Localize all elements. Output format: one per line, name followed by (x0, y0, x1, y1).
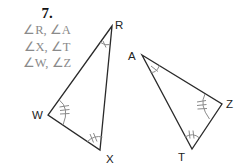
angle-r-mark (100, 41, 110, 48)
vertex-label-w: W (32, 109, 43, 121)
triangle-azt-sides (142, 55, 222, 149)
triangle-azt: A Z T (128, 50, 233, 163)
vertex-label-r: R (115, 19, 123, 31)
congruent-triangles-figure: R W X A Z T (0, 0, 244, 167)
angle-z-mark (197, 94, 210, 119)
vertex-label-a: A (128, 50, 136, 62)
angle-t-mark (185, 131, 200, 139)
vertex-label-z: Z (226, 98, 233, 110)
triangle-rwx-sides (48, 26, 112, 150)
triangle-rwx: R W X (32, 19, 123, 165)
vertex-label-t: T (178, 151, 185, 163)
angle-w-mark (59, 100, 70, 125)
vertex-label-x: X (106, 153, 114, 165)
